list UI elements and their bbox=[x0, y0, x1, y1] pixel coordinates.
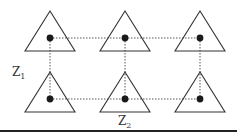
z2-label-subscript: 2 bbox=[126, 121, 131, 130]
nodes-group bbox=[25, 11, 225, 112]
dot-n-0-2 bbox=[197, 35, 204, 42]
dot-n-0-0 bbox=[47, 35, 54, 42]
dot-n-1-0 bbox=[47, 96, 54, 103]
z2-label-base: Z bbox=[118, 114, 126, 128]
z1-label-base: Z bbox=[12, 65, 20, 79]
dot-n-1-1 bbox=[122, 96, 129, 103]
z1-label-subscript: 1 bbox=[20, 72, 25, 81]
z2-label: Z2 bbox=[118, 114, 131, 130]
lattice-diagram: Z1 Z2 bbox=[0, 0, 237, 135]
z1-label: Z1 bbox=[12, 65, 25, 81]
dot-n-0-1 bbox=[122, 35, 129, 42]
dot-n-1-2 bbox=[197, 96, 204, 103]
